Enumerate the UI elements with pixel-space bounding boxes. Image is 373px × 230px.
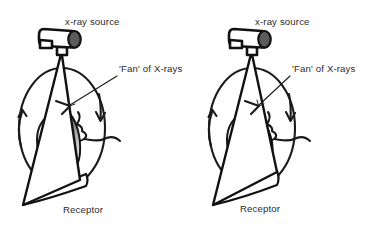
xray-tube-icon-right [229, 29, 271, 48]
diagram-canvas: x-ray source 'Fan' of X-rays Receptor [0, 0, 373, 230]
label-fan-right: 'Fan' of X-rays [292, 63, 356, 74]
label-fan-left: 'Fan' of X-rays [119, 63, 183, 74]
label-xray-source-right: x-ray source [255, 16, 310, 27]
label-receptor-right: Receptor [240, 203, 281, 214]
xray-panoramic-diagram: x-ray source 'Fan' of X-rays Receptor [0, 0, 373, 230]
label-xray-source-left: x-ray source [65, 16, 120, 27]
label-receptor-left: Receptor [63, 204, 104, 215]
xray-tube-icon-left [39, 29, 81, 48]
